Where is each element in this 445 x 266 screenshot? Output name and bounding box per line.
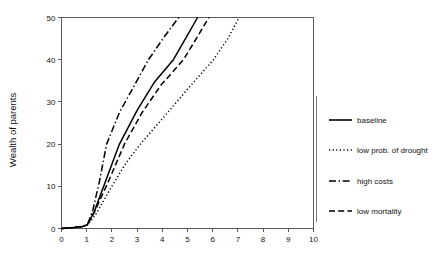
series-line-low-mortality xyxy=(62,18,209,229)
series-line-high-costs xyxy=(62,18,179,229)
x-tick-label: 5 xyxy=(185,235,190,244)
legend-label: high costs xyxy=(357,177,393,186)
x-tick-label: 4 xyxy=(160,235,165,244)
line-chart: 012345678910 01020304050 Wealth of paren… xyxy=(0,0,445,266)
series-line-low-prob-of-drought xyxy=(62,18,240,229)
chart-screenshot: 012345678910 01020304050 Wealth of paren… xyxy=(0,0,445,266)
x-tick-label: 1 xyxy=(84,235,89,244)
figure-panel: 012345678910 01020304050 Wealth of paren… xyxy=(0,0,445,266)
series-line-baseline xyxy=(62,18,198,229)
legend-label: baseline xyxy=(357,116,387,125)
x-axis-ticks: 012345678910 xyxy=(59,229,318,244)
y-tick-label: 10 xyxy=(47,182,56,191)
x-tick-label: 3 xyxy=(135,235,140,244)
y-tick-label: 40 xyxy=(47,56,56,65)
legend-item-low-prob-of-drought[interactable]: low prob. of drought xyxy=(329,146,428,155)
x-tick-label: 6 xyxy=(210,235,215,244)
x-tick-label: 8 xyxy=(261,235,266,244)
x-tick-label: 10 xyxy=(309,235,318,244)
y-tick-label: 50 xyxy=(47,14,56,23)
legend-label: low prob. of drought xyxy=(357,146,428,155)
y-tick-label: 30 xyxy=(47,98,56,107)
x-tick-label: 0 xyxy=(59,235,64,244)
y-axis-ticks: 01020304050 xyxy=(47,14,62,234)
y-axis-title: Wealth of parents xyxy=(7,93,18,168)
x-tick-label: 9 xyxy=(286,235,291,244)
x-tick-label: 7 xyxy=(236,235,241,244)
x-tick-label: 2 xyxy=(110,235,115,244)
chart-legend: baselinelow prob. of droughthigh costslo… xyxy=(317,96,429,222)
legend-label: low mortality xyxy=(357,207,401,216)
legend-item-low-mortality[interactable]: low mortality xyxy=(329,207,401,216)
y-tick-label: 0 xyxy=(51,225,56,234)
legend-item-high-costs[interactable]: high costs xyxy=(329,177,393,186)
series-group xyxy=(62,18,240,229)
y-tick-label: 20 xyxy=(47,140,56,149)
legend-item-baseline[interactable]: baseline xyxy=(329,116,387,125)
